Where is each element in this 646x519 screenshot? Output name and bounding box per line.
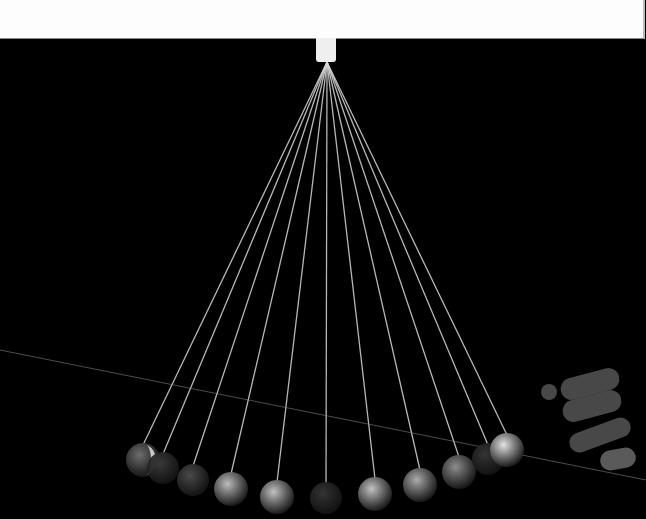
laser-line [0,350,646,480]
pendulum-ball [490,433,524,467]
pendulum-string [327,62,488,445]
pendulum-ball [177,464,209,496]
pendulum-ball [403,468,437,502]
pendulum-string [327,62,375,479]
hand [541,366,637,472]
pendulum-string [326,62,327,484]
pendulum-string [143,62,327,445]
pendulum-string [231,62,327,474]
pendulum-ball [147,452,179,484]
pendulum-string [327,62,459,457]
pendulum-string [327,62,420,470]
pendulum-scene [0,0,646,519]
pendulum-string [327,62,507,435]
pendulum-string [193,62,327,466]
pendulum-ball [358,477,392,511]
pendulum-ball [310,482,342,514]
pendulum-string [163,62,327,454]
pendulum-string [277,62,327,482]
pendulum-ball [260,480,294,514]
pendulum-ball [442,455,476,489]
pendulum-ball [214,472,248,506]
